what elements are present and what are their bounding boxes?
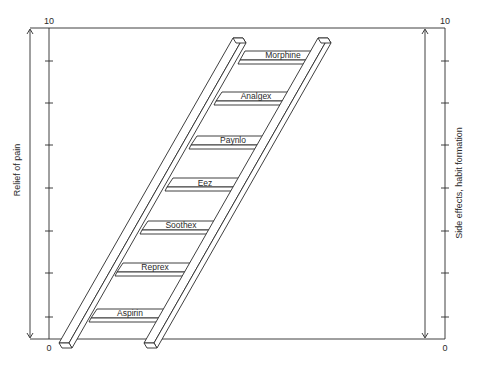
- left-rail: [59, 38, 246, 348]
- ladder: Morphine Analgex Paynlo Eez: [59, 38, 331, 348]
- rung-label: Eez: [198, 178, 213, 188]
- rung-label: Soothex: [165, 220, 197, 230]
- left-axis-min-label: 0: [46, 343, 51, 353]
- rung-label: Aspirin: [117, 308, 143, 318]
- ladder-diagram: 10 0 Relief of pain 10 0 Side effects, h…: [0, 0, 480, 366]
- rung-label: Paynlo: [220, 135, 246, 145]
- right-axis-max-label: 10: [440, 16, 450, 26]
- rung-label: Morphine: [265, 50, 301, 60]
- right-rail: [144, 38, 331, 348]
- left-axis-title: Relief of pain: [12, 144, 22, 197]
- rung-label: Reprex: [141, 262, 169, 272]
- left-axis-max-label: 10: [44, 16, 54, 26]
- left-axis: 10 0 Relief of pain: [12, 16, 54, 353]
- right-axis: 10 0 Side effects, habit formation: [422, 16, 464, 353]
- right-axis-title: Side effects, habit formation: [454, 127, 464, 238]
- right-axis-min-label: 0: [442, 343, 447, 353]
- rung-label: Analgex: [241, 91, 272, 101]
